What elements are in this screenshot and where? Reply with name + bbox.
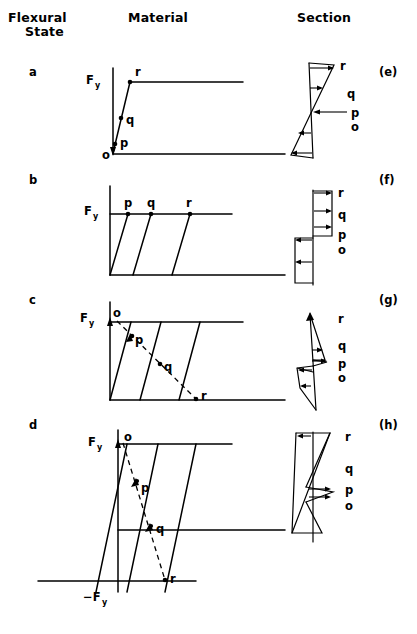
material-panel-a: F y r q p o xyxy=(86,65,285,162)
section-diagonal-h xyxy=(292,433,330,533)
curve-load-3-c xyxy=(179,322,200,400)
axis-label-fy-sub-b: y xyxy=(93,212,99,221)
point-label-p-a: p xyxy=(120,136,128,150)
curve-load-q-b xyxy=(133,214,151,275)
marker-p-d xyxy=(135,479,139,483)
section-apex-arrow-g xyxy=(306,312,314,321)
section-block-upper-f xyxy=(313,191,332,236)
curve-load-3-d xyxy=(165,444,196,592)
material-panel-b: F y p q r xyxy=(84,186,285,275)
curve-load-1-d xyxy=(96,444,127,592)
point-label-p-c: p xyxy=(135,333,143,347)
section-block-lower-f xyxy=(295,238,313,283)
section-divider-arrow-f-4 xyxy=(295,260,301,265)
point-label-q-d: q xyxy=(156,522,164,536)
section-point-label-p-h: p xyxy=(345,483,353,497)
figure-root: Flexural State Material Section a b c d … xyxy=(0,0,417,634)
section-wedge-lower-h xyxy=(292,433,322,533)
section-step-lower-g xyxy=(297,366,313,372)
panel-tag-e: (e) xyxy=(379,65,397,79)
material-panel-c: F y o p q r xyxy=(80,302,285,403)
section-divider-arrow-f-2 xyxy=(326,225,332,230)
section-point-label-r-f: r xyxy=(338,186,344,200)
axis-label-neg-fy-sub-d: y xyxy=(102,598,108,607)
section-wedge-lower-e xyxy=(291,113,313,158)
section-point-label-q-g: q xyxy=(338,339,346,353)
row-label-d: d xyxy=(29,418,37,432)
header-material: Material xyxy=(128,10,188,25)
section-point-label-r-g: r xyxy=(338,312,344,326)
axis-label-fy-sub-c: y xyxy=(89,319,95,328)
row-label-a: a xyxy=(29,65,37,79)
marker-q-a xyxy=(119,116,124,121)
section-point-label-o-e: o xyxy=(351,120,359,134)
section-panel-h: r q p o xyxy=(292,430,353,542)
point-label-o-d: o xyxy=(124,430,132,444)
header-flexural-state-line2: State xyxy=(25,24,64,39)
section-point-label-o-g: o xyxy=(338,371,346,385)
point-label-q-a: q xyxy=(126,113,134,127)
marker-q-d xyxy=(149,524,153,528)
panel-tag-g: (g) xyxy=(379,293,398,307)
stress-arrowhead-g-4 xyxy=(300,384,306,389)
section-point-label-p-e: p xyxy=(351,106,359,120)
header-flexural-state-line1: Flexural xyxy=(8,10,67,25)
material-panel-d: F y −F y o p q r xyxy=(38,430,285,607)
curve-load-2-d xyxy=(127,444,158,592)
point-label-r-c: r xyxy=(201,389,207,403)
section-point-label-o-f: o xyxy=(338,243,346,257)
section-point-label-r-e: r xyxy=(340,59,346,73)
point-label-o-c: o xyxy=(113,306,121,320)
row-label-b: b xyxy=(29,173,37,187)
section-point-label-p-g: p xyxy=(338,357,346,371)
section-wedge-lower-g xyxy=(297,368,316,410)
header-section: Section xyxy=(297,10,351,25)
curve-load-p-b xyxy=(110,214,128,275)
stress-arrowhead-h-3 xyxy=(297,434,303,439)
stress-arrowhead-h-2 xyxy=(325,495,331,500)
axis-label-fy-sub-d: y xyxy=(97,443,103,452)
section-point-label-q-f: q xyxy=(338,208,346,222)
section-panel-f: r q p o xyxy=(295,186,346,285)
point-label-o-a: o xyxy=(102,148,110,162)
row-label-c: c xyxy=(29,293,36,307)
curve-load-1-c xyxy=(110,322,131,400)
curve-load-r-b xyxy=(172,214,190,275)
marker-q-c xyxy=(158,362,163,367)
marker-p-b xyxy=(126,212,131,217)
marker-r-d xyxy=(163,578,168,583)
flexural-state-diagram: Flexural State Material Section a b c d … xyxy=(0,0,417,634)
marker-p-a xyxy=(113,142,118,147)
marker-r-b xyxy=(188,212,193,217)
point-label-p-b: p xyxy=(124,196,132,210)
panel-tag-h: (h) xyxy=(379,418,398,432)
point-label-q-c: q xyxy=(164,360,172,374)
marker-q-b xyxy=(149,212,154,217)
pointer-arrowhead-p-e xyxy=(313,109,320,114)
section-panel-e: r q p o xyxy=(291,59,359,158)
marker-r-a xyxy=(128,80,133,85)
axis-label-fy-d: F xyxy=(88,435,96,449)
section-point-label-p-f: p xyxy=(338,228,346,242)
section-divider-arrow-f-1 xyxy=(326,209,332,214)
axis-label-fy-sub-a: y xyxy=(95,81,101,90)
axis-label-fy-c: F xyxy=(80,311,88,325)
axis-label-neg-fy-d: −F xyxy=(83,590,101,604)
section-point-label-o-h: o xyxy=(345,499,353,513)
point-label-r-a: r xyxy=(135,65,141,79)
point-label-r-b: r xyxy=(186,196,192,210)
marker-r-c xyxy=(194,397,199,402)
point-label-q-b: q xyxy=(147,196,155,210)
section-panel-g: r q p o xyxy=(297,312,346,410)
section-point-label-q-h: q xyxy=(345,462,353,476)
axis-label-fy-b: F xyxy=(84,204,92,218)
point-label-p-d: p xyxy=(141,481,149,495)
section-point-label-q-e: q xyxy=(347,87,355,101)
axis-label-fy-a: F xyxy=(86,73,94,87)
point-label-r-d: r xyxy=(170,572,176,586)
section-point-label-r-h: r xyxy=(345,430,351,444)
panel-tag-f: (f) xyxy=(379,173,395,187)
